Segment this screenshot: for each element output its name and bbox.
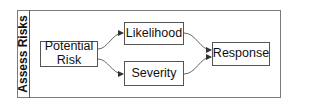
node-potential-risk: Potential Risk — [40, 41, 98, 67]
edge-potential-risk-to-severity — [98, 59, 123, 74]
node-response: Response — [212, 42, 270, 66]
edge-likelihood-to-response — [184, 33, 211, 50]
edge-severity-to-response — [184, 57, 211, 74]
node-likelihood-label: Likelihood — [126, 27, 182, 41]
edge-potential-risk-to-likelihood — [98, 33, 123, 49]
node-potential-risk-label: Potential Risk — [44, 40, 94, 68]
node-response-label: Response — [213, 47, 269, 61]
node-severity: Severity — [124, 61, 184, 86]
node-likelihood: Likelihood — [124, 22, 184, 45]
node-severity-label: Severity — [131, 67, 176, 81]
